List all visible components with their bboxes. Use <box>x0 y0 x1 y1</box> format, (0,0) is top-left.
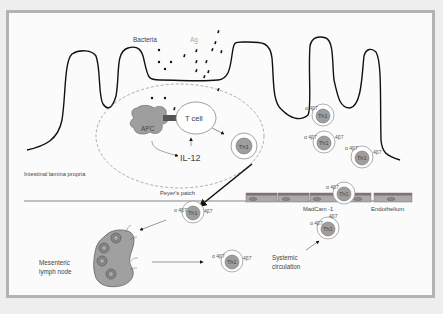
svg-text:α 4β7: α 4β7 <box>304 134 317 140</box>
svg-text:α 4β7: α 4β7 <box>174 207 187 213</box>
svg-text:Th1: Th1 <box>319 140 328 146</box>
diagram-canvas: Bacteria Ag APC T cell IL-12 Th1 Peyer's… <box>0 0 443 314</box>
lamina-propria-label: Intestinal lamina propria <box>24 171 86 177</box>
th1-cell-lp-3: Th1 α 4β7 4β7 <box>345 145 382 168</box>
svg-text:α 4β7: α 4β7 <box>310 220 323 226</box>
svg-text:Th1: Th1 <box>339 191 348 197</box>
svg-text:Th1: Th1 <box>318 113 327 119</box>
endothelium-label: Endothelium <box>371 206 404 212</box>
systemic-label-1: Systemic <box>272 254 298 262</box>
th1-cell-lp-1: Th1 α 4β7 <box>305 104 334 126</box>
endothelium-cells <box>246 193 412 202</box>
th1-cell-exit: Th1 α 4β7 4β7 <box>174 201 213 223</box>
apc-tcell-synapse <box>163 115 177 121</box>
il12-arrow-from-apc <box>152 141 178 156</box>
svg-text:α 4β7: α 4β7 <box>305 105 318 111</box>
mesenteric-lymph-node <box>94 225 138 287</box>
svg-text:4β7: 4β7 <box>243 255 252 261</box>
peyers-patch-label: Peyer's patch <box>160 190 195 196</box>
bacteria-label: Bacteria <box>133 36 157 43</box>
svg-text:4β7: 4β7 <box>329 213 338 219</box>
svg-text:4β7: 4β7 <box>373 149 382 155</box>
th1-cell-peyers: Th1 <box>231 133 257 159</box>
svg-text:α 4β7: α 4β7 <box>326 184 339 190</box>
lymph-node-label-2: lymph node <box>39 268 72 276</box>
lymph-node-label-1: Mesenteric <box>39 259 70 266</box>
svg-text:Th1: Th1 <box>323 226 332 232</box>
madcam-label: MadCam -1 <box>303 206 333 212</box>
svg-text:Th1: Th1 <box>188 210 197 216</box>
apc-label: APC <box>141 125 155 132</box>
antigen-label: Ag <box>190 36 198 44</box>
t-cell-label: T cell <box>185 114 203 123</box>
th1-cell-circulating: Th1 α 4β7 4β7 <box>212 250 252 272</box>
th1-cell-lp-2: Th1 α 4β7 4β7 <box>304 131 344 153</box>
svg-text:4β7: 4β7 <box>204 208 213 214</box>
bacteria-dots <box>151 49 172 99</box>
systemic-arrow <box>306 241 319 250</box>
il12-label: IL-12 <box>180 153 201 163</box>
to-lymph-node-arrow <box>140 220 166 230</box>
svg-text:Th1: Th1 <box>357 155 366 161</box>
svg-text:Th1: Th1 <box>227 259 236 265</box>
svg-text:α 4β7: α 4β7 <box>212 253 225 259</box>
villi-outline <box>27 37 400 160</box>
svg-text:4β7: 4β7 <box>335 134 344 140</box>
tcell-to-th1-arrow <box>212 128 224 134</box>
svg-text:α 4β7: α 4β7 <box>345 145 358 151</box>
th1-cell-systemic: Th1 α 4β7 4β7 <box>310 213 339 239</box>
systemic-label-2: circulation <box>272 263 301 270</box>
svg-text:Th1: Th1 <box>239 144 250 150</box>
